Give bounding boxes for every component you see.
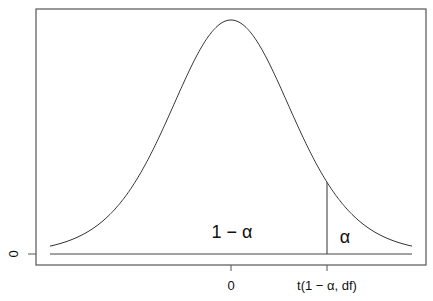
t-distribution-plot: 0 t(1 − α, df) 0 1 − α α — [0, 0, 433, 301]
y-tick-label-0: 0 — [6, 250, 21, 257]
area-label-alpha: α — [340, 227, 350, 247]
density-curve — [50, 20, 412, 246]
area-label-1-minus-alpha: 1 − α — [212, 222, 253, 242]
x-tick-label-crit: t(1 − α, df) — [297, 278, 357, 293]
x-tick-label-0: 0 — [227, 278, 234, 293]
